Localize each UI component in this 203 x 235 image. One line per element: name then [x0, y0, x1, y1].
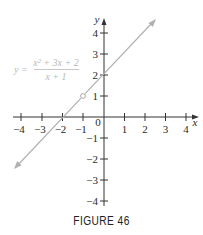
formula-label: y = x² + 3x + 2 x + 1: [13, 57, 79, 82]
x-tick-label: 1: [122, 123, 128, 135]
figure-caption: FIGURE 46: [15, 214, 188, 228]
hole-point: [81, 94, 86, 99]
x-tick-label: 4: [183, 123, 189, 135]
y-tick-label: −3: [86, 174, 98, 186]
y-axis-arrow-icon: [102, 18, 107, 25]
x-tick-label: 2: [142, 123, 148, 135]
x-tick-label: 3: [163, 123, 169, 135]
x-tick-label: −3: [34, 123, 46, 135]
y-tick-label: 3: [93, 48, 99, 60]
y-tick-label: 1: [93, 90, 99, 102]
x-axis: [13, 115, 199, 120]
x-tick-label: −4: [13, 123, 25, 135]
y-tick-label: 2: [93, 69, 99, 81]
y-tick-label: −2: [86, 153, 98, 165]
graph-figure: −4 −3 −2 −1 1 2 3 4 0 4 3 2 1 −1 −2 −3 −…: [0, 0, 203, 235]
formula-denominator: x + 1: [44, 71, 66, 82]
y-tick-label: −1: [86, 132, 98, 144]
x-tick-label: −1: [75, 123, 87, 135]
y-tick-label: −4: [86, 195, 98, 207]
y-axis: [102, 18, 107, 206]
formula-lhs: y =: [13, 64, 28, 75]
x-tick-labels: −4 −3 −2 −1 1 2 3 4: [13, 123, 189, 135]
y-axis-label: y: [94, 13, 100, 25]
origin-label: 0: [95, 116, 101, 128]
formula-numerator: x² + 3x + 2: [32, 57, 78, 68]
x-axis-label: x: [192, 116, 198, 128]
y-tick-label: 4: [93, 27, 99, 39]
